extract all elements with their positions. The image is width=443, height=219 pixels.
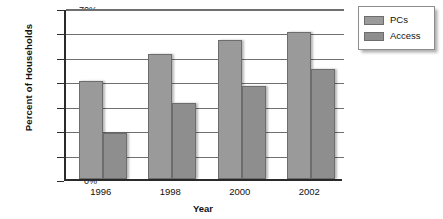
y-axis-tick: [57, 108, 64, 109]
plot-area: [64, 10, 342, 181]
bar-access-1998: [172, 103, 196, 179]
x-axis-tick-label: 1996: [66, 186, 136, 197]
y-axis-tick: [57, 157, 64, 158]
y-axis-tick: [57, 83, 64, 84]
legend-label-access: Access: [390, 31, 421, 41]
x-axis-tick-label: 1998: [135, 186, 205, 197]
y-axis-title: Percent of Households: [23, 0, 34, 158]
bar-group-1998: [148, 10, 196, 179]
bar-series-container: [66, 10, 342, 179]
chart-legend: PCs Access: [358, 6, 435, 50]
legend-label-pcs: PCs: [390, 15, 408, 25]
chart-figure: Percent of Households 0%10%20%30%40%50%6…: [0, 0, 443, 219]
y-axis-tick: [57, 34, 64, 35]
bar-group-1996: [79, 10, 127, 179]
bar-group-2002: [287, 10, 335, 179]
bar-access-2000: [242, 86, 266, 179]
bar-pcs-1996: [79, 81, 103, 179]
bar-access-2002: [311, 69, 335, 179]
legend-swatch-pcs: [364, 16, 384, 25]
legend-item-pcs: PCs: [364, 13, 428, 27]
bar-access-1996: [103, 133, 127, 179]
bar-pcs-2002: [287, 32, 311, 179]
x-axis-title: Year: [64, 203, 342, 214]
x-axis-tick-label: 2002: [274, 186, 344, 197]
x-axis-tick-label: 2000: [205, 186, 275, 197]
y-axis-tick: [57, 132, 64, 133]
legend-item-access: Access: [364, 29, 428, 43]
y-axis-tick: [57, 181, 64, 182]
bar-pcs-1998: [148, 54, 172, 179]
bar-pcs-2000: [218, 40, 242, 179]
bar-group-2000: [218, 10, 266, 179]
y-axis-tick: [57, 59, 64, 60]
y-axis-tick: [57, 10, 64, 11]
legend-swatch-access: [364, 32, 384, 41]
